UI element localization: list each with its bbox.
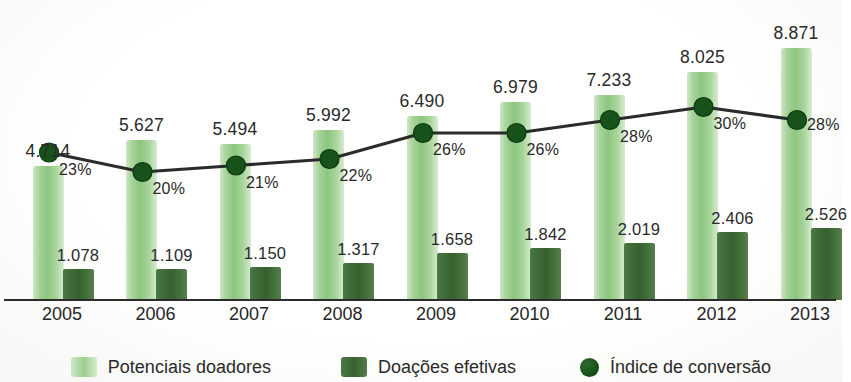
value-label-indice-de-conversao: 23%: [59, 161, 105, 179]
value-label-indice-de-conversao: 22%: [340, 167, 386, 185]
value-label-indice-de-conversao: 28%: [807, 116, 851, 134]
bar-potenciais-doadores: [33, 166, 64, 300]
value-label-potenciais-doadores: 5.992: [291, 105, 366, 126]
x-axis-label-2006: 2006: [111, 304, 201, 325]
x-axis-label-2008: 2008: [298, 304, 388, 325]
value-label-doacoes-efetivas: 2.526: [789, 205, 851, 224]
value-label-doacoes-efetivas: 2.019: [602, 220, 677, 239]
x-axis-label-2005: 2005: [17, 304, 107, 325]
bar-doacoes-efetivas: [624, 243, 655, 300]
value-label-indice-de-conversao: 30%: [714, 115, 760, 133]
x-axis-label-2007: 2007: [204, 304, 294, 325]
value-label-potenciais-doadores: 4.714: [11, 141, 86, 162]
bar-doacoes-efetivas: [530, 248, 561, 300]
bar-potenciais-doadores: [220, 144, 251, 300]
value-label-doacoes-efetivas: 1.658: [415, 230, 490, 249]
x-axis-label-2010: 2010: [485, 304, 575, 325]
bar-potenciais-doadores: [687, 72, 718, 300]
chart-legend: Potenciais doadores Doações efetivas Índ…: [0, 352, 842, 382]
value-label-indice-de-conversao: 20%: [153, 180, 199, 198]
x-axis-label-2011: 2011: [578, 304, 668, 325]
x-axis-label-2009: 2009: [391, 304, 481, 325]
x-axis-label-2013: 2013: [765, 304, 851, 325]
value-label-doacoes-efetivas: 1.109: [134, 246, 209, 265]
value-label-doacoes-efetivas: 1.078: [41, 246, 116, 265]
value-label-potenciais-doadores: 8.025: [665, 47, 740, 68]
value-label-potenciais-doadores: 7.233: [572, 70, 647, 91]
value-label-potenciais-doadores: 8.871: [759, 23, 834, 44]
value-label-potenciais-doadores: 5.627: [104, 115, 179, 136]
bar-doacoes-efetivas: [437, 253, 468, 300]
legend-item-doacoes-efetivas: Doações efetivas: [341, 357, 516, 378]
dark-green-dot-marker-icon: [580, 358, 599, 377]
value-label-potenciais-doadores: 5.494: [198, 119, 273, 140]
bar-potenciais-doadores: [500, 102, 531, 300]
value-label-doacoes-efetivas: 2.406: [695, 209, 770, 228]
bar-potenciais-doadores: [126, 140, 157, 300]
x-axis-label-2012: 2012: [672, 304, 762, 325]
bar-doacoes-efetivas: [63, 269, 94, 300]
value-label-potenciais-doadores: 6.979: [478, 77, 553, 98]
legend-label-potenciais-doadores: Potenciais doadores: [108, 357, 271, 378]
legend-item-indice-de-conversao: Índice de conversão: [580, 357, 771, 378]
dark-green-bar-swatch-icon: [341, 357, 367, 377]
value-label-doacoes-efetivas: 1.317: [321, 240, 396, 259]
bar-doacoes-efetivas: [717, 232, 748, 300]
value-label-indice-de-conversao: 21%: [246, 174, 292, 192]
x-axis-line: [4, 299, 836, 301]
bar-doacoes-efetivas: [343, 263, 374, 300]
value-label-indice-de-conversao: 26%: [433, 141, 479, 159]
legend-label-doacoes-efetivas: Doações efetivas: [378, 357, 516, 378]
value-label-indice-de-conversao: 26%: [527, 141, 573, 159]
bar-doacoes-efetivas: [156, 269, 187, 300]
value-label-doacoes-efetivas: 1.150: [228, 244, 303, 263]
bar-potenciais-doadores: [313, 130, 344, 300]
bar-doacoes-efetivas: [250, 267, 281, 300]
value-label-potenciais-doadores: 6.490: [385, 91, 460, 112]
legend-item-potenciais-doadores: Potenciais doadores: [71, 357, 271, 378]
bar-potenciais-doadores: [594, 95, 625, 300]
light-green-bar-swatch-icon: [71, 357, 97, 377]
bar-doacoes-efetivas: [811, 228, 842, 300]
legend-label-indice-de-conversao: Índice de conversão: [610, 357, 771, 378]
value-label-indice-de-conversao: 28%: [620, 128, 666, 146]
bar-potenciais-doadores: [781, 48, 812, 300]
value-label-doacoes-efetivas: 1.842: [508, 225, 583, 244]
